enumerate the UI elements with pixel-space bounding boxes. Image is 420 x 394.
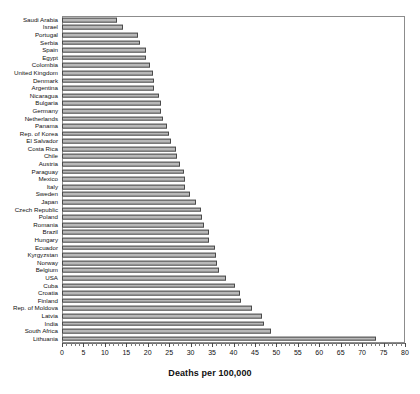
bar-row xyxy=(62,236,405,244)
x-tick-label: 30 xyxy=(187,349,195,356)
bar xyxy=(62,162,180,167)
bar-row xyxy=(62,168,405,176)
x-tick-minor xyxy=(178,343,179,346)
bar-row xyxy=(62,46,405,54)
bar xyxy=(62,131,169,136)
bar xyxy=(62,200,196,205)
x-tick-minor xyxy=(396,343,397,346)
bar xyxy=(62,109,161,114)
x-tick-major xyxy=(319,343,320,347)
bar xyxy=(62,245,215,250)
x-axis: 05101520253035404550556065707580 xyxy=(62,343,405,344)
bar-row xyxy=(62,84,405,92)
x-tick-minor xyxy=(354,343,355,346)
bar-row xyxy=(62,160,405,168)
x-tick-minor xyxy=(109,343,110,346)
bar xyxy=(62,33,138,38)
bar-row xyxy=(62,77,405,85)
x-tick-minor xyxy=(66,343,67,346)
x-tick-major xyxy=(298,343,299,347)
x-tick-minor xyxy=(195,343,196,346)
x-tick-minor xyxy=(345,343,346,346)
bar-row xyxy=(62,62,405,70)
bar xyxy=(62,17,117,22)
bar-row xyxy=(62,244,405,252)
x-tick-minor xyxy=(332,343,333,346)
x-tick-minor xyxy=(285,343,286,346)
x-tick-minor xyxy=(272,343,273,346)
x-tick-major xyxy=(234,343,235,347)
x-tick-major xyxy=(148,343,149,347)
x-tick-major xyxy=(405,343,406,347)
bar-row xyxy=(62,320,405,328)
bars-container xyxy=(62,16,405,343)
x-tick-minor xyxy=(388,343,389,346)
bar-row xyxy=(62,198,405,206)
bar-row xyxy=(62,289,405,297)
x-tick-label: 60 xyxy=(315,349,323,356)
x-tick-minor xyxy=(208,343,209,346)
bar xyxy=(62,177,185,182)
bar-row xyxy=(62,213,405,221)
bar xyxy=(62,336,376,341)
x-tick-minor xyxy=(392,343,393,346)
x-tick-minor xyxy=(199,343,200,346)
bar xyxy=(62,276,226,281)
bar-row xyxy=(62,24,405,32)
bar-row xyxy=(62,191,405,199)
x-tick-major xyxy=(169,343,170,347)
x-tick-minor xyxy=(358,343,359,346)
x-tick-minor xyxy=(311,343,312,346)
bar-row xyxy=(62,335,405,343)
x-tick-label: 25 xyxy=(165,349,173,356)
x-tick-label: 80 xyxy=(401,349,409,356)
x-tick-label: 65 xyxy=(337,349,345,356)
bar xyxy=(62,169,184,174)
x-tick-minor xyxy=(173,343,174,346)
bar xyxy=(62,101,161,106)
bar xyxy=(62,222,204,227)
x-tick-major xyxy=(191,343,192,347)
bar-row xyxy=(62,31,405,39)
x-tick-major xyxy=(126,343,127,347)
bar-row xyxy=(62,100,405,108)
bar xyxy=(62,253,216,258)
x-tick-label: 55 xyxy=(294,349,302,356)
x-tick-minor xyxy=(264,343,265,346)
bar xyxy=(62,25,123,30)
x-tick-minor xyxy=(246,343,247,346)
bar xyxy=(62,147,176,152)
x-axis-title: Deaths per 100,000 xyxy=(0,368,420,378)
bar xyxy=(62,238,209,243)
x-tick-minor xyxy=(268,343,269,346)
x-tick-major xyxy=(341,343,342,347)
bar-row xyxy=(62,145,405,153)
x-tick-minor xyxy=(79,343,80,346)
category-label: Lithuania xyxy=(0,335,60,343)
x-tick-major xyxy=(83,343,84,347)
x-tick-major xyxy=(255,343,256,347)
x-tick-label: 50 xyxy=(272,349,280,356)
bar xyxy=(62,48,146,53)
x-tick-minor xyxy=(135,343,136,346)
bar xyxy=(62,139,171,144)
bar xyxy=(62,192,190,197)
x-tick-minor xyxy=(294,343,295,346)
x-tick-minor xyxy=(131,343,132,346)
bar-row xyxy=(62,138,405,146)
bar xyxy=(62,78,154,83)
x-tick-minor xyxy=(229,343,230,346)
x-tick-minor xyxy=(203,343,204,346)
bar-row xyxy=(62,122,405,130)
x-tick-minor xyxy=(379,343,380,346)
x-tick-label: 5 xyxy=(81,349,85,356)
x-tick-minor xyxy=(113,343,114,346)
bar xyxy=(62,306,252,311)
x-tick-minor xyxy=(315,343,316,346)
x-tick-major xyxy=(384,343,385,347)
bar-row xyxy=(62,221,405,229)
bar xyxy=(62,185,185,190)
bar xyxy=(62,93,159,98)
bar xyxy=(62,260,217,265)
bar xyxy=(62,207,201,212)
